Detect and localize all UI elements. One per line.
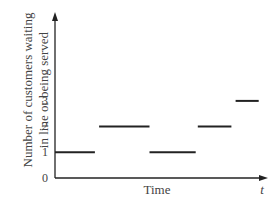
x-axis-label: Time: [144, 182, 171, 197]
y-axis-arrow-icon: [52, 12, 58, 21]
step-segments: [55, 101, 259, 152]
ytick-1: 1: [42, 145, 48, 159]
ytick-3: 3: [42, 94, 48, 108]
step-chart: 0 1 2 3 Time t: [0, 0, 278, 204]
ytick-0: 0: [42, 171, 48, 185]
x-axis-arrow-icon: [259, 175, 268, 181]
x-axis-symbol: t: [260, 182, 264, 197]
ytick-2: 2: [42, 119, 48, 133]
